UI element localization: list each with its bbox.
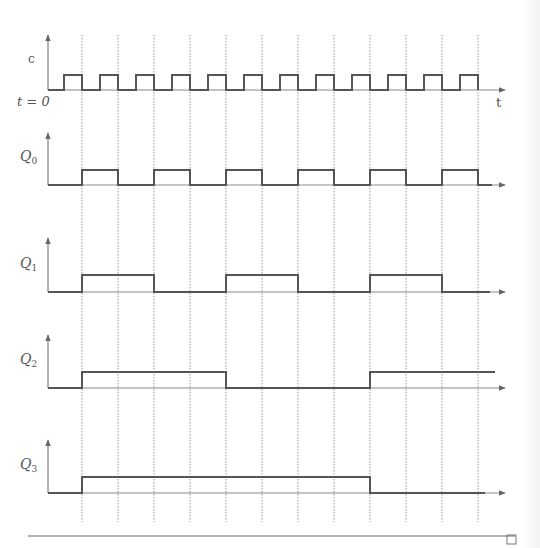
signal-q0	[48, 133, 505, 185]
clock-waveform	[48, 75, 478, 90]
q0-label: Q0	[20, 148, 37, 166]
gridlines	[82, 35, 478, 522]
labels: t t = 0 cQ0Q1Q2Q3	[17, 52, 502, 474]
q1-waveform	[48, 275, 490, 292]
signal-q3	[48, 440, 505, 493]
origin-label: t = 0	[17, 94, 50, 109]
q2-waveform	[48, 372, 495, 388]
q3-waveform	[48, 477, 485, 493]
page-edge-shadow	[522, 0, 540, 548]
q1-label: Q1	[20, 255, 37, 273]
signals	[48, 35, 505, 493]
signal-q1	[48, 238, 505, 292]
time-axis-label: t	[496, 95, 502, 110]
q0-waveform	[48, 170, 492, 185]
q3-label: Q3	[20, 456, 37, 474]
signal-clock	[48, 35, 505, 90]
timing-diagram: t t = 0 cQ0Q1Q2Q3	[0, 0, 540, 548]
clock-label: c	[28, 52, 35, 66]
q2-label: Q2	[20, 351, 37, 369]
signal-q2	[48, 335, 505, 388]
